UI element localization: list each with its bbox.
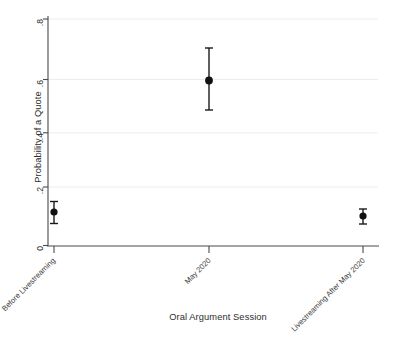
x-tick-group-may-2020: May 2020 <box>205 256 206 257</box>
y-tick-0: 0 <box>10 241 40 251</box>
chart-container: .8 .6 .4 .2 0 Probability of a Quote Bef… <box>0 0 393 341</box>
gridlines <box>48 19 378 187</box>
data-point-livestreaming-after-may-2020 <box>359 209 367 224</box>
x-axis-title: Oral Argument Session <box>118 312 318 322</box>
y-tick-0.8: .8 <box>10 14 40 24</box>
data-point-may-2020 <box>205 48 213 110</box>
x-axis-ticks <box>54 246 363 253</box>
x-tick-group-livestreaming-after-may-2020: Livestreaming After May 2020 <box>359 256 360 257</box>
y-tick-label: .8 <box>35 19 45 45</box>
x-tick-group-before-livestreaming: Before Livestreaming <box>50 256 51 257</box>
data-point-before-livestreaming <box>50 202 58 224</box>
y-axis-title: Probability of a Quote <box>33 52 43 222</box>
